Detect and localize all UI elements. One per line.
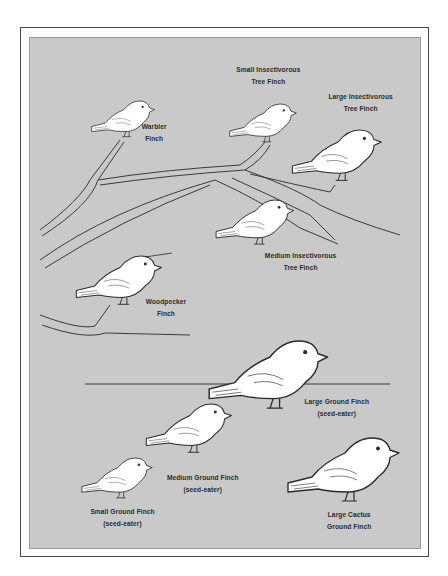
- small-ground-finch-drawing: [82, 458, 152, 498]
- small-insectivorous-tree-finch-drawing: [230, 104, 297, 142]
- label-medium-ground-finch: Medium Ground Finch (seed-eater): [167, 472, 239, 496]
- large-insectivorous-tree-finch-drawing: [292, 130, 381, 180]
- label-large-ground-finch: Large Ground Finch (seed-eater): [304, 396, 369, 420]
- label-large-cactus-ground-finch: Large Cactus Ground Finch: [327, 509, 371, 533]
- label-woodpecker-finch: Woodpecker Finch: [146, 296, 186, 320]
- label-warbler-finch: Warbler Finch: [142, 121, 167, 145]
- label-small-ground-finch: Small Ground Finch (seed-eater): [90, 506, 154, 530]
- label-small-insectivorous-tree-finch: Small Insectivorous Tree Finch: [236, 64, 300, 88]
- label-large-insectivorous-tree-finch: Large Insectivorous Tree Finch: [328, 91, 392, 115]
- large-cactus-ground-finch-drawing: [288, 438, 399, 501]
- label-medium-insectivorous-tree-finch: Medium Insectivorous Tree Finch: [265, 250, 336, 274]
- medium-insectivorous-tree-finch-drawing: [216, 200, 294, 244]
- medium-ground-finch-drawing: [146, 404, 231, 452]
